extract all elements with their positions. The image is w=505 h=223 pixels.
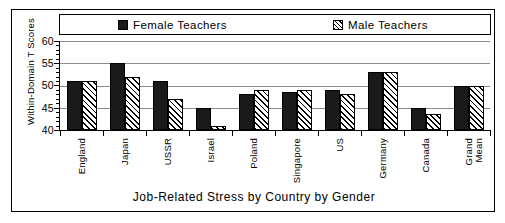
x-category-label: Canada bbox=[421, 138, 431, 198]
x-category-label: Japan bbox=[120, 138, 130, 198]
x-axis-title: Job-Related Stress by Country by Gender bbox=[12, 190, 496, 204]
x-tick bbox=[232, 131, 233, 136]
bar-male bbox=[297, 90, 312, 130]
x-tick bbox=[490, 131, 491, 136]
y-tick-label-45: 45 bbox=[28, 103, 54, 113]
x-category-label: Israel bbox=[206, 138, 216, 198]
x-category-label: Poland bbox=[249, 138, 259, 198]
bar-female bbox=[411, 108, 426, 130]
gridline bbox=[60, 41, 490, 42]
y-tick-label-50: 50 bbox=[28, 80, 54, 90]
bar-male bbox=[383, 72, 398, 130]
bar-female bbox=[110, 63, 125, 130]
bar-female bbox=[239, 94, 254, 130]
x-tick bbox=[103, 131, 104, 136]
x-tick bbox=[146, 131, 147, 136]
x-category-label: England bbox=[77, 138, 87, 198]
solid-square-icon bbox=[118, 20, 128, 30]
x-category-label: US bbox=[335, 138, 345, 198]
y-axis-ticks: 60 55 50 45 40 bbox=[12, 10, 54, 213]
x-tick bbox=[60, 131, 61, 136]
hatched-square-icon bbox=[333, 20, 343, 30]
bar-male bbox=[125, 77, 140, 130]
x-tick bbox=[318, 131, 319, 136]
bar-male bbox=[469, 86, 484, 131]
bar-female bbox=[325, 90, 340, 130]
chart-legend: Female Teachers Male Teachers bbox=[59, 14, 491, 35]
x-tick bbox=[189, 131, 190, 136]
gridline bbox=[60, 63, 490, 64]
bar-male bbox=[426, 114, 441, 130]
x-category-label: Grand Mean bbox=[464, 138, 484, 198]
bar-female bbox=[282, 92, 297, 130]
bar-male bbox=[211, 126, 226, 130]
bar-female bbox=[67, 81, 82, 130]
legend-label-male-teachers: Male Teachers bbox=[348, 19, 428, 31]
bar-female bbox=[153, 81, 168, 130]
chart-figure: Female Teachers Male Teachers Within-Dom… bbox=[11, 9, 495, 212]
x-tick bbox=[275, 131, 276, 136]
x-category-label: USSR bbox=[163, 138, 173, 198]
bar-female bbox=[368, 72, 383, 130]
x-tick bbox=[447, 131, 448, 136]
legend-label-female-teachers: Female Teachers bbox=[133, 19, 227, 31]
x-tick bbox=[404, 131, 405, 136]
y-tick-label-60: 60 bbox=[28, 36, 54, 46]
bar-male bbox=[168, 99, 183, 130]
bar-male bbox=[82, 81, 97, 130]
y-tick-label-55: 55 bbox=[28, 58, 54, 68]
x-category-label: Singapore bbox=[292, 138, 302, 198]
legend-entry-female-teachers: Female Teachers bbox=[118, 17, 227, 33]
x-tick bbox=[361, 131, 362, 136]
bar-male bbox=[340, 94, 355, 130]
bar-female bbox=[196, 108, 211, 130]
bar-male bbox=[254, 90, 269, 130]
bar-female bbox=[454, 86, 469, 131]
legend-entry-male-teachers: Male Teachers bbox=[333, 17, 428, 33]
x-category-label: Germany bbox=[378, 138, 388, 198]
plot-area bbox=[60, 41, 490, 130]
y-tick-label-40: 40 bbox=[28, 125, 54, 135]
